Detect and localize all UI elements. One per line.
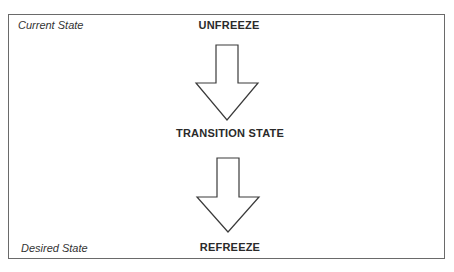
arrows	[0, 0, 454, 272]
down-arrow-icon	[197, 158, 259, 232]
down-arrow-icon	[196, 45, 258, 120]
